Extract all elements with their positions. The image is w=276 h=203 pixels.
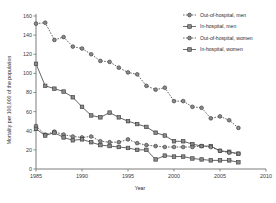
y-tick-label: 140 — [23, 32, 32, 38]
data-point-circle — [62, 35, 66, 39]
data-point-square — [89, 114, 93, 118]
legend-marker-circle — [188, 13, 192, 17]
y-tick-label: 40 — [26, 128, 32, 134]
y-tick-label: 80 — [26, 89, 32, 95]
x-axis-title: Year — [135, 185, 146, 191]
data-point-square — [34, 127, 38, 131]
y-tick-label: 20 — [26, 147, 32, 153]
mortality-line-chart: 020406080100120140160 198519901995200020… — [0, 0, 276, 203]
data-point-square — [43, 134, 47, 138]
data-point-circle — [71, 135, 75, 139]
data-point-square — [99, 143, 103, 147]
data-point-square — [117, 116, 121, 120]
data-point-circle — [191, 145, 195, 149]
data-point-circle — [191, 105, 195, 109]
data-point-circle — [209, 116, 213, 120]
data-point-circle — [89, 135, 93, 139]
data-point-circle — [200, 106, 204, 110]
data-point-square — [154, 158, 158, 162]
data-point-circle — [200, 144, 204, 148]
data-point-square — [200, 158, 204, 162]
data-point-circle — [117, 140, 121, 144]
data-point-circle — [237, 152, 241, 156]
data-point-circle — [237, 126, 241, 130]
data-point-circle — [126, 71, 130, 75]
legend-item-2[interactable]: Out-of-hospital, women — [183, 35, 253, 41]
data-point-circle — [163, 86, 167, 90]
data-point-square — [172, 140, 176, 144]
data-point-circle — [108, 140, 112, 144]
data-point-circle — [135, 72, 139, 76]
data-point-circle — [145, 84, 149, 88]
legend-marker-square — [188, 48, 192, 52]
legend-item-1[interactable]: In-hospital, men — [183, 23, 236, 29]
data-point-circle — [154, 88, 158, 92]
data-point-square — [62, 136, 66, 140]
legend-label: Out-of-hospital, men — [200, 12, 246, 18]
data-point-circle — [172, 99, 176, 103]
data-point-circle — [80, 47, 84, 51]
y-tick-label: 0 — [29, 166, 32, 172]
x-tick-label: 2010 — [260, 173, 272, 179]
x-tick-label: 2000 — [168, 173, 180, 179]
data-point-square — [135, 122, 139, 126]
data-point-square — [80, 138, 84, 142]
data-point-square — [43, 84, 47, 88]
data-point-square — [154, 131, 158, 135]
legend-item-0[interactable]: Out-of-hospital, men — [183, 12, 246, 18]
data-point-circle — [34, 22, 38, 26]
data-point-square — [227, 159, 231, 163]
data-point-square — [62, 90, 66, 94]
data-point-square — [135, 148, 139, 152]
data-point-square — [53, 87, 57, 91]
data-point-square — [181, 155, 185, 159]
x-tick-label: 2005 — [214, 173, 226, 179]
data-point-circle — [227, 118, 231, 122]
y-tick-label: 100 — [23, 70, 32, 76]
legend-label: Out-of-hospital, women — [200, 35, 253, 41]
data-point-square — [126, 119, 130, 123]
data-point-circle — [218, 115, 222, 119]
data-point-square — [163, 154, 167, 158]
y-axis-ticks: 020406080100120140160 — [23, 13, 36, 172]
data-point-square — [53, 131, 57, 135]
data-point-square — [209, 159, 213, 163]
y-tick-label: 60 — [26, 109, 32, 115]
data-point-circle — [108, 60, 112, 64]
data-point-square — [108, 144, 112, 148]
data-point-circle — [135, 141, 139, 145]
data-point-square — [99, 116, 103, 120]
data-point-circle — [181, 145, 185, 149]
data-point-square — [218, 159, 222, 163]
data-point-square — [108, 111, 112, 115]
data-point-square — [126, 146, 130, 150]
legend-marker-square — [188, 25, 192, 29]
data-point-square — [145, 148, 149, 152]
data-point-square — [80, 105, 84, 109]
data-point-circle — [89, 52, 93, 56]
data-point-circle — [145, 143, 149, 147]
data-point-square — [117, 145, 121, 149]
data-point-circle — [227, 151, 231, 155]
data-point-square — [71, 96, 75, 100]
x-axis-ticks: 198519901995200020052010 — [30, 169, 272, 179]
legend-label: In-hospital, men — [200, 23, 236, 29]
data-point-square — [191, 157, 195, 161]
y-axis-title: Mortality per 100,000 of the population — [6, 56, 12, 145]
data-point-square — [172, 155, 176, 159]
data-point-circle — [172, 145, 176, 149]
data-point-circle — [126, 138, 130, 142]
legend-marker-circle — [188, 36, 192, 40]
data-point-circle — [71, 45, 75, 49]
data-point-circle — [117, 66, 121, 70]
chart-legend: Out-of-hospital, menIn-hospital, menOut-… — [183, 12, 253, 53]
data-point-square — [237, 161, 241, 165]
data-point-square — [163, 134, 167, 138]
legend-label: In-hospital, women — [200, 46, 243, 52]
chart-series — [34, 21, 240, 164]
data-point-circle — [181, 99, 185, 103]
chart-container: 020406080100120140160 198519901995200020… — [0, 0, 276, 203]
legend-item-3[interactable]: In-hospital, women — [183, 46, 243, 52]
data-point-circle — [163, 145, 167, 149]
data-point-circle — [209, 145, 213, 149]
